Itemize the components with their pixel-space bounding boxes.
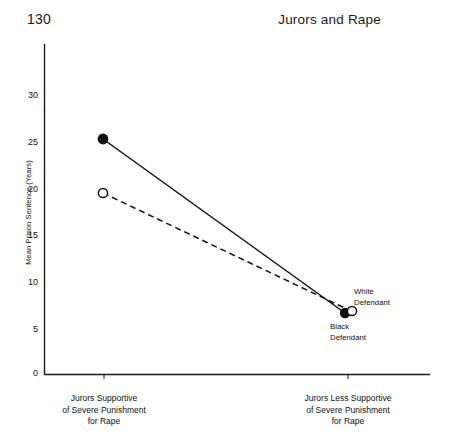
x-category-label-supportive: Jurors Supportive of Severe Punishment f… — [19, 393, 189, 428]
series-line-white-defendant — [103, 193, 351, 311]
data-point-black-supportive — [98, 134, 109, 145]
book-page: 130 Jurors and Rape Mean Prison Sentence… — [0, 0, 449, 437]
series-label-white-line-2: Defendant — [354, 298, 390, 309]
series-label-black-line-2: Defendant — [330, 333, 366, 344]
series-label-black-line-1: Black — [330, 322, 366, 333]
y-tick-label-5: 5 — [12, 324, 38, 334]
y-axis-label: Mean Prison Sentence (Years) — [24, 123, 33, 303]
x-category-right-line-2: of Severe Punishment — [263, 405, 433, 417]
x-category-left-line-1: Jurors Supportive — [19, 393, 189, 405]
x-category-right-line-3: for Rape — [263, 416, 433, 428]
y-tick-label-30: 30 — [12, 90, 38, 100]
y-tick-label-20: 20 — [12, 184, 38, 194]
data-point-white-supportive — [98, 188, 107, 197]
series-label-black-defendant: Black Defendant — [330, 322, 366, 343]
y-tick-label-15: 15 — [12, 230, 38, 240]
chart-plot-area — [0, 0, 449, 437]
series-label-white-line-1: White — [354, 287, 390, 298]
x-category-left-line-2: of Severe Punishment — [19, 405, 189, 417]
x-category-right-line-1: Jurors Less Supportive — [263, 393, 433, 405]
series-label-white-defendant: White Defendant — [354, 287, 390, 308]
y-tick-label-0: 0 — [12, 368, 38, 378]
series-line-black-defendant — [103, 139, 345, 313]
y-tick-label-25: 25 — [12, 137, 38, 147]
x-category-label-less-supportive: Jurors Less Supportive of Severe Punishm… — [263, 393, 433, 428]
y-tick-label-10: 10 — [12, 277, 38, 287]
x-category-left-line-3: for Rape — [19, 416, 189, 428]
line-chart-figure: Mean Prison Sentence (Years) 30 25 20 15… — [0, 0, 449, 437]
